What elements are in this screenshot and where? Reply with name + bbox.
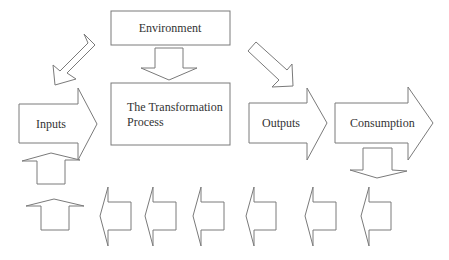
arrow-down-icon <box>350 148 407 178</box>
consumption-label: Consumption <box>350 116 415 130</box>
arrow-up-icon <box>26 199 84 230</box>
arrow-down-left-icon <box>53 34 95 85</box>
inputs-arrow: Inputs <box>19 88 97 160</box>
arrow-left-icon <box>361 187 391 246</box>
transformation-label-line2: Process <box>127 115 164 129</box>
outputs-arrow: Outputs <box>249 88 327 160</box>
arrow-down-right-icon <box>248 42 293 87</box>
inputs-label: Inputs <box>36 117 66 131</box>
environment-label: Environment <box>139 21 202 35</box>
outputs-label: Outputs <box>262 116 300 130</box>
environment-box: Environment <box>111 11 230 45</box>
transformation-diagram: Environment The Transformation Process I… <box>0 0 449 260</box>
arrow-up-icon <box>22 153 80 184</box>
transformation-label-line1: The Transformation <box>127 100 223 114</box>
arrow-left-icon <box>100 187 131 246</box>
arrow-left-icon <box>246 187 276 246</box>
arrow-left-icon <box>145 187 176 246</box>
arrow-left-icon <box>193 187 224 246</box>
arrow-down-icon <box>141 48 197 80</box>
transformation-process-box: The Transformation Process <box>111 83 230 145</box>
arrow-left-icon <box>305 187 336 246</box>
